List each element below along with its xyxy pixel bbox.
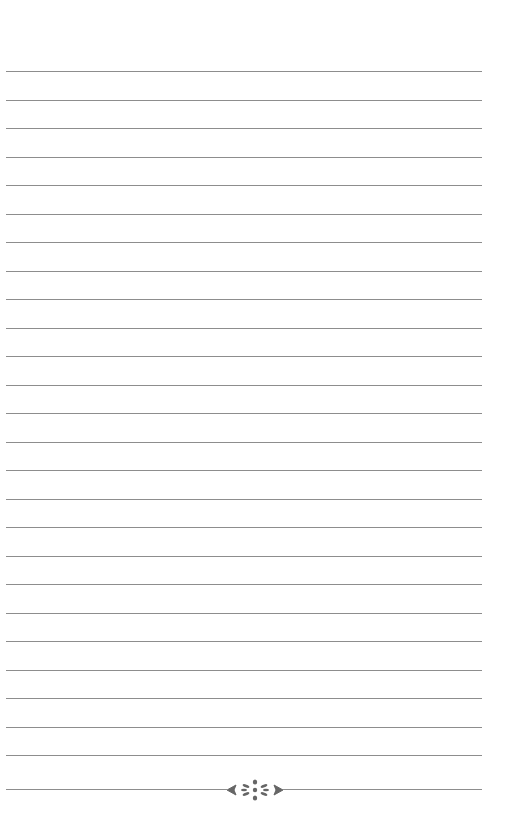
ruled-line	[6, 185, 482, 186]
ruled-line	[6, 385, 482, 386]
ruled-line	[6, 100, 482, 101]
ruled-line	[6, 271, 482, 272]
ruled-line	[6, 413, 482, 414]
ruled-line	[6, 157, 482, 158]
ruled-line	[6, 670, 482, 671]
ruled-line	[6, 242, 482, 243]
ruled-line	[6, 641, 482, 642]
ruled-line	[6, 499, 482, 500]
ruled-line	[6, 527, 482, 528]
ruled-line	[6, 470, 482, 471]
ornament-line-right	[283, 789, 482, 790]
ruled-line	[6, 328, 482, 329]
ruled-line	[6, 214, 482, 215]
ruled-line	[6, 698, 482, 699]
ruled-line	[6, 356, 482, 357]
ruled-line	[6, 613, 482, 614]
flourish-divider-icon	[170, 778, 340, 802]
ruled-line	[6, 584, 482, 585]
ruled-line	[6, 755, 482, 756]
ruled-line	[6, 556, 482, 557]
ruled-line	[6, 299, 482, 300]
ruled-line	[6, 71, 482, 72]
ornament-line-left	[6, 789, 228, 790]
ruled-line	[6, 128, 482, 129]
ruled-line	[6, 442, 482, 443]
ruled-line	[6, 727, 482, 728]
